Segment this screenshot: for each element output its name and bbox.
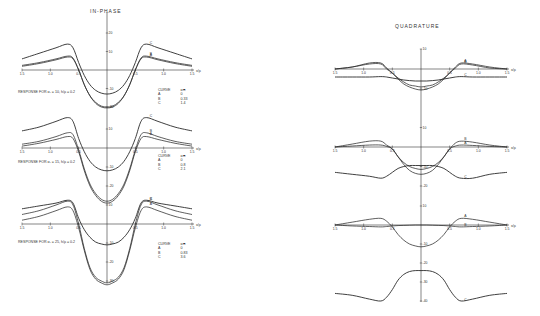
y-tick-label: 20	[109, 31, 113, 35]
x-tick-label: 1.0	[361, 227, 366, 231]
x-tick-label: 1.0	[361, 149, 366, 153]
chart-panel-6: 1.51.00.50.51.01.5x/ρ10-10-20-30-40ABC	[333, 200, 516, 303]
response-curves-figure: 1.51.00.50.51.01.5x/ρ2010-10-20ABC1.51.0…	[0, 0, 540, 316]
x-tick-label: 1.0	[476, 227, 481, 231]
chart-panel-2: 1.51.00.50.51.01.5x/ρ10-10-20ABC	[20, 108, 201, 203]
x-tick-label: 1.0	[48, 72, 53, 76]
x-axis-label: x/ρ	[511, 146, 516, 150]
curve-label: A	[464, 214, 467, 218]
x-tick-label: 1.0	[161, 150, 166, 154]
y-tick-label: 10	[423, 126, 427, 130]
x-tick-label: 1.5	[20, 72, 25, 76]
x-axis-label: x/ρ	[196, 223, 201, 227]
x-tick-label: 1.5	[190, 150, 195, 154]
x-tick-label: 1.5	[333, 227, 338, 231]
y-tick-label: -20	[109, 184, 114, 188]
curve-label: C	[150, 41, 153, 45]
x-tick-label: 1.0	[161, 72, 166, 76]
y-tick-label: -20	[423, 261, 428, 265]
y-tick-label: -20	[423, 184, 428, 188]
y-tick-label: -40	[423, 299, 428, 303]
x-tick-label: 1.5	[505, 227, 510, 231]
x-tick-label: 1.5	[190, 72, 195, 76]
x-axis-label: x/ρ	[511, 68, 516, 72]
y-tick-label: 10	[423, 204, 427, 208]
y-tick-label: 10	[109, 127, 113, 131]
x-axis-label: x/ρ	[511, 224, 516, 228]
curve-label: C	[464, 298, 467, 302]
curve-label: B	[150, 52, 153, 56]
x-tick-label: 1.5	[190, 226, 195, 230]
x-axis-label: x/ρ	[196, 69, 201, 73]
curve-label: C	[150, 197, 153, 201]
x-tick-label: 1.5	[505, 149, 510, 153]
y-tick-label: -30	[423, 280, 428, 284]
curve-label: B	[150, 129, 153, 133]
x-tick-label: 1.0	[161, 226, 166, 230]
chart-panel-1: 1.51.00.50.51.01.5x/ρ2010-10-20ABC	[20, 12, 201, 109]
x-tick-label: 1.0	[361, 71, 366, 75]
curve-label: B	[464, 137, 467, 141]
y-tick-label: -20	[109, 260, 114, 264]
x-tick-label: 1.5	[333, 71, 338, 75]
x-tick-label: 1.0	[476, 149, 481, 153]
x-tick-label: 1.0	[476, 71, 481, 75]
x-tick-label: 1.0	[48, 226, 53, 230]
x-tick-label: 1.5	[20, 226, 25, 230]
y-tick-label: 10	[423, 47, 427, 51]
x-tick-label: 1.5	[20, 150, 25, 154]
x-tick-label: 1.5	[333, 149, 338, 153]
y-tick-label: 10	[109, 203, 113, 207]
chart-panel-5: 1.51.00.50.51.01.5x/ρ10-10-20ABC	[333, 120, 516, 200]
chart-panel-4: 1.51.00.50.51.01.5x/ρ10-10ABC	[333, 47, 516, 120]
x-tick-label: 1.5	[505, 71, 510, 75]
chart-panel-3: 1.51.00.50.51.01.5x/ρ10-10-20-30ABC	[20, 185, 201, 285]
curve-label: C	[150, 114, 153, 118]
y-tick-label: -10	[109, 165, 114, 169]
y-tick-label: 10	[109, 50, 113, 54]
y-tick-label: -10	[109, 87, 114, 91]
x-tick-label: 1.0	[48, 150, 53, 154]
x-axis-label: x/ρ	[196, 147, 201, 151]
